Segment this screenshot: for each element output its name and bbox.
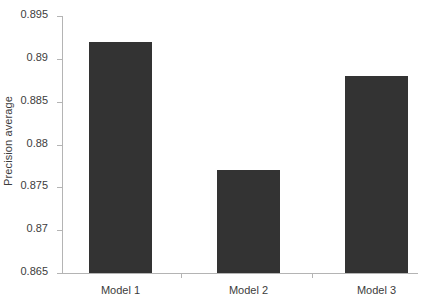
x-axis-line <box>62 273 418 274</box>
y-tick-label-1: 0.89 <box>27 51 48 63</box>
y-tick-label-2: 0.885 <box>20 94 48 106</box>
bar-model-2 <box>217 170 280 273</box>
y-tick-label-4: 0.875 <box>20 179 48 191</box>
x-tick-separator-2 <box>312 273 313 278</box>
y-tick-5: 0.87 <box>57 230 62 231</box>
y-axis-line <box>62 16 63 273</box>
x-category-label-1: Model 1 <box>89 284 152 296</box>
y-tick-label-5: 0.87 <box>27 222 48 234</box>
bar-model-1 <box>89 42 152 273</box>
y-tick-label-3: 0.88 <box>27 137 48 149</box>
y-axis-title: Precision average <box>2 9 14 273</box>
y-tick-label-6: 0.865 <box>20 265 48 277</box>
bar-model-3 <box>345 76 408 273</box>
x-category-label-2: Model 2 <box>217 284 280 296</box>
y-tick-1: 0.89 <box>57 59 62 60</box>
y-tick-label-0: 0.895 <box>20 8 48 20</box>
y-tick-2: 0.885 <box>57 102 62 103</box>
y-tick-4: 0.875 <box>57 187 62 188</box>
plot-area: 0.895 0.89 0.885 0.88 0.875 0.87 0.865 M… <box>62 16 418 273</box>
y-tick-0: 0.895 <box>57 16 62 17</box>
y-tick-3: 0.88 <box>57 145 62 146</box>
x-tick-separator-1 <box>181 273 182 278</box>
y-tick-6: 0.865 <box>57 273 62 274</box>
x-category-label-3: Model 3 <box>345 284 408 296</box>
bar-chart-figure: Precision average 0.895 0.89 0.885 0.88 … <box>0 0 424 306</box>
